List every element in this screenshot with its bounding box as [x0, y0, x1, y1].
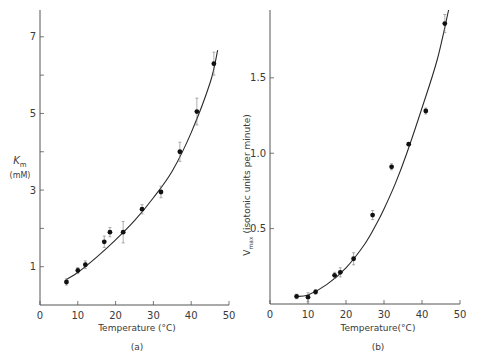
fitted-curve: [66, 50, 217, 279]
y-tick-label: 1.0: [250, 148, 266, 159]
x-tick-label: 50: [454, 309, 467, 320]
data-point: [370, 213, 375, 218]
data-point: [194, 109, 199, 114]
chart-canvas: 010203040501357Temperature (°C)(a)Km(mM)…: [0, 0, 479, 360]
x-tick-label: 0: [267, 309, 273, 320]
y-tick-label: 7: [30, 31, 36, 42]
data-point: [159, 190, 164, 195]
x-tick-label: 40: [185, 310, 198, 321]
data-point: [306, 295, 311, 300]
x-tick-label: 10: [71, 310, 84, 321]
data-point: [140, 207, 145, 212]
data-point: [423, 109, 428, 114]
data-point: [121, 230, 126, 235]
y-tick-label: 3: [30, 185, 36, 196]
x-tick-label: 50: [223, 310, 236, 321]
data-point: [442, 21, 447, 26]
data-point: [294, 294, 299, 299]
x-tick-label: 30: [378, 309, 391, 320]
x-tick-label: 0: [37, 310, 43, 321]
x-tick-label: 20: [109, 310, 122, 321]
y-tick-label: 5: [30, 108, 36, 119]
y-axis-label: Km: [13, 155, 27, 169]
fitted-curve: [297, 10, 449, 296]
chart-panel-a: 010203040501357Temperature (°C)(a)Km(mM): [10, 10, 236, 352]
data-point: [75, 268, 80, 273]
data-point: [83, 262, 88, 267]
y-tick-label: 1: [30, 261, 36, 272]
data-point: [351, 256, 356, 261]
y-axis-label: Vmax (isotonic units per minute): [242, 114, 254, 255]
data-point: [406, 142, 411, 147]
data-point: [177, 149, 182, 154]
y-axis-unit: (mM): [10, 171, 31, 180]
data-point: [313, 290, 318, 295]
x-tick-label: 10: [302, 309, 315, 320]
chart-panel-b: 010203040500.51.01.5Temperature(°C)(b)Vm…: [242, 10, 466, 352]
x-axis-label: Temperature (°C): [97, 323, 176, 333]
panel-label: (b): [372, 342, 385, 352]
figure: 010203040501357Temperature (°C)(a)Km(mM)…: [0, 0, 479, 360]
data-point: [338, 270, 343, 275]
data-point: [389, 164, 394, 169]
y-tick-label: 0.5: [250, 223, 266, 234]
x-axis-label: Temperature(°C): [340, 323, 416, 333]
data-point: [102, 239, 107, 244]
data-point: [108, 230, 113, 235]
x-tick-label: 30: [147, 310, 160, 321]
data-point: [64, 280, 69, 285]
data-point: [211, 61, 216, 66]
x-tick-label: 40: [416, 309, 429, 320]
panel-label: (a): [131, 342, 144, 352]
x-tick-label: 20: [340, 309, 353, 320]
y-tick-label: 1.5: [250, 72, 266, 83]
data-point: [332, 273, 337, 278]
